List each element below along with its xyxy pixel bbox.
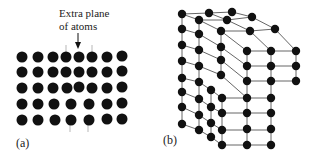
- panel-b: (b): [163, 8, 300, 149]
- annotation-line2: of atoms: [59, 20, 97, 32]
- annotation-line1: Extra plane: [59, 7, 110, 19]
- panel-a: Extra plane of atoms (a): [16, 7, 128, 150]
- lattice-b-atoms: [178, 8, 300, 149]
- arrow-down-icon: [75, 33, 81, 49]
- dislocation-figure: Extra plane of atoms (a): [0, 0, 317, 159]
- lattice-a-atoms: [17, 51, 128, 126]
- panel-a-label: (a): [16, 136, 29, 150]
- panel-b-label: (b): [163, 133, 177, 147]
